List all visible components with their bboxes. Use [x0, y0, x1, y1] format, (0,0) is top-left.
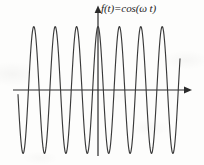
function-label-text: f(t)=cos(ω t) — [101, 2, 156, 14]
cosine-waveform-figure: f(t)=cos(ω t) — [0, 0, 204, 165]
time-axis-arrowhead — [184, 86, 192, 93]
waveform-plot — [0, 0, 204, 165]
function-label: f(t)=cos(ω t) — [101, 2, 156, 15]
